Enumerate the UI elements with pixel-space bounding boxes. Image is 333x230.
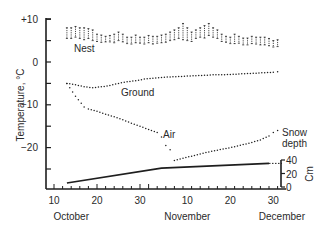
air-point: [174, 160, 176, 162]
ground-point: [129, 81, 131, 83]
series-nest: [66, 23, 279, 47]
air-point: [242, 144, 244, 146]
air-point: [119, 118, 121, 120]
air-point: [91, 109, 93, 111]
ground-point: [138, 80, 140, 82]
ground-point: [204, 75, 206, 77]
air-point: [265, 137, 267, 139]
air-point: [169, 149, 171, 151]
x-tick-label: 30: [134, 195, 146, 206]
ground-point: [158, 77, 160, 79]
x-tick-label: 30: [268, 195, 280, 206]
ground-point: [135, 80, 137, 82]
air-point: [260, 139, 262, 141]
air-point: [72, 91, 74, 93]
ground-point: [273, 72, 275, 74]
air-point: [179, 158, 181, 160]
air-point: [217, 149, 219, 151]
air-point: [105, 113, 107, 115]
air-point: [211, 151, 213, 153]
air-point: [156, 132, 158, 134]
air-point: [142, 127, 144, 129]
air-point: [228, 147, 230, 149]
month-label: December: [259, 211, 306, 222]
ground-point: [75, 84, 77, 86]
ground-point: [118, 83, 120, 85]
nest-label: Nest: [74, 43, 95, 54]
ground-point: [161, 77, 163, 79]
series-ground: [66, 71, 278, 88]
ground-point: [255, 72, 257, 74]
ground-point: [181, 76, 183, 78]
ground-point: [152, 78, 154, 80]
x-tick-label: 20: [91, 195, 103, 206]
ground-point: [235, 73, 237, 75]
ground-point: [232, 74, 234, 76]
air-point: [185, 157, 187, 159]
ground-point: [144, 78, 146, 80]
ground-point: [115, 83, 117, 85]
ground-point: [175, 76, 177, 78]
snow-label-line1: Snow: [282, 127, 308, 138]
ground-point: [224, 74, 226, 76]
ground-point: [169, 76, 171, 78]
air-label: Air: [163, 129, 176, 140]
ground-point: [123, 82, 125, 84]
air-point: [111, 115, 113, 117]
ground-point: [212, 74, 214, 76]
ground-point: [209, 74, 211, 76]
air-point: [93, 110, 95, 112]
air-point: [99, 111, 101, 113]
air-point: [245, 143, 247, 145]
air-point: [66, 83, 68, 85]
snow-tick-label: 40: [286, 155, 298, 166]
air-point: [197, 154, 199, 156]
air-point: [116, 117, 118, 119]
air-point: [254, 141, 256, 143]
air-point: [122, 119, 124, 121]
ground-point: [258, 72, 260, 74]
air-point: [165, 145, 167, 147]
ground-point: [201, 75, 203, 77]
snow-tick-label: 0: [286, 182, 292, 193]
air-point: [205, 152, 207, 154]
ground-point: [218, 74, 220, 76]
air-point: [225, 148, 227, 150]
air-point: [188, 156, 190, 158]
ground-point: [164, 77, 166, 79]
air-point: [194, 155, 196, 157]
ground-point: [178, 76, 180, 78]
ground-point: [198, 75, 200, 77]
ground-point: [121, 82, 123, 84]
ground-point: [146, 78, 148, 80]
air-point: [88, 108, 90, 110]
snow-label-line2: depth: [282, 138, 307, 149]
air-point: [263, 138, 265, 140]
air-point: [96, 110, 98, 112]
air-point: [83, 106, 85, 108]
air-point: [240, 145, 242, 147]
ground-point: [238, 73, 240, 75]
ground-point: [166, 76, 168, 78]
ground-point: [106, 85, 108, 87]
month-label: November: [164, 211, 211, 222]
ground-point: [78, 85, 80, 87]
ground-point: [241, 73, 243, 75]
air-point: [69, 87, 71, 89]
air-point: [131, 122, 133, 124]
air-point: [136, 124, 138, 126]
ground-point: [247, 73, 249, 75]
axes: +100−10−20Temperature, °C102030102030Oct…: [15, 14, 306, 222]
ground-point: [92, 87, 94, 89]
y-tick-label: +10: [21, 14, 38, 25]
air-point: [182, 158, 184, 160]
ground-point: [184, 76, 186, 78]
ground-point: [189, 75, 191, 77]
ground-point: [132, 80, 134, 82]
air-point: [78, 99, 80, 101]
air-point: [273, 132, 275, 134]
ground-point: [187, 75, 189, 77]
air-point: [234, 146, 236, 148]
air-point: [191, 155, 193, 157]
air-point: [108, 114, 110, 116]
